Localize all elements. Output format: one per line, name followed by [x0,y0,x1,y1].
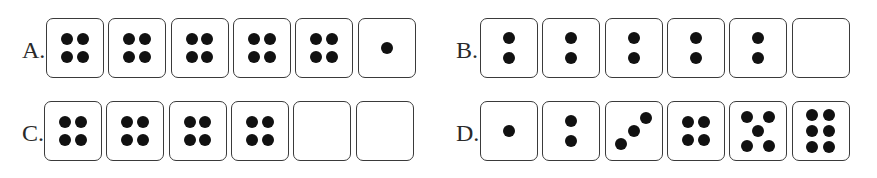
pip-dot-icon [186,33,198,45]
pip-dot-icon [823,125,835,137]
die-face-four [46,18,104,78]
pip-dot-icon [248,33,260,45]
die-face-two [605,18,663,78]
die-face-four [667,101,725,161]
die-face-two [667,18,725,78]
pip-dot-icon [248,51,260,63]
pip-dot-icon [682,116,694,128]
pip-dot-icon [640,112,652,124]
pip-dot-icon [741,140,753,152]
pip-dot-icon [326,51,338,63]
pip-dot-icon [264,51,276,63]
pip-dot-icon [326,33,338,45]
pip-dot-icon [690,32,702,44]
option-label: C. [22,121,44,145]
pip-dot-icon [310,51,322,63]
option-label: D. [456,121,479,145]
die-face-four [108,18,166,78]
pip-dot-icon [752,125,764,137]
die-face-blank [356,101,414,161]
pip-dot-icon [806,141,818,153]
pip-dot-icon [61,33,73,45]
pip-dot-icon [121,134,133,146]
pip-dot-icon [763,111,775,123]
pip-dot-icon [123,51,135,63]
die-face-blank [792,18,850,78]
die-face-five [729,101,787,161]
pip-dot-icon [246,116,258,128]
pip-dot-icon [741,111,753,123]
pip-dot-icon [615,138,627,150]
pip-dot-icon [503,125,515,137]
pip-dot-icon [59,116,71,128]
pip-dot-icon [123,33,135,45]
pip-dot-icon [61,51,73,63]
pip-dot-icon [186,51,198,63]
pip-dot-icon [199,116,211,128]
pip-dot-icon [137,116,149,128]
pip-dot-icon [628,32,640,44]
pip-dot-icon [628,125,640,137]
die-face-four [231,101,289,161]
die-face-two [480,18,538,78]
pip-dot-icon [565,135,577,147]
pip-dot-icon [503,52,515,64]
pip-dot-icon [752,52,764,64]
die-face-four [169,101,227,161]
die-face-six [792,101,850,161]
die-face-four [233,18,291,78]
die-face-four [106,101,164,161]
pip-dot-icon [262,116,274,128]
pip-dot-icon [184,116,196,128]
die-face-two [729,18,787,78]
pip-dot-icon [75,134,87,146]
die-face-one [358,18,416,78]
die-face-two [542,18,600,78]
pip-dot-icon [199,134,211,146]
die-face-four [171,18,229,78]
die-face-three [605,101,663,161]
pip-dot-icon [139,51,151,63]
pip-dot-icon [246,134,258,146]
pip-dot-icon [565,32,577,44]
pip-dot-icon [690,52,702,64]
pip-dot-icon [310,33,322,45]
pip-dot-icon [262,134,274,146]
pip-dot-icon [59,134,71,146]
pip-dot-icon [201,33,213,45]
pip-dot-icon [121,116,133,128]
pip-dot-icon [503,32,515,44]
pip-dot-icon [628,52,640,64]
pip-dot-icon [682,134,694,146]
pip-dot-icon [381,42,393,54]
pip-dot-icon [763,140,775,152]
die-face-blank [293,101,351,161]
pip-dot-icon [139,33,151,45]
pip-dot-icon [77,51,89,63]
pip-dot-icon [565,52,577,64]
option-label: B. [456,38,478,62]
pip-dot-icon [75,116,87,128]
die-face-two [542,101,600,161]
pip-dot-icon [698,116,710,128]
pip-dot-icon [823,141,835,153]
pip-dot-icon [77,33,89,45]
die-face-four [44,101,102,161]
pip-dot-icon [806,109,818,121]
die-face-one [480,101,538,161]
pip-dot-icon [806,125,818,137]
pip-dot-icon [184,134,196,146]
pip-dot-icon [823,109,835,121]
pip-dot-icon [137,134,149,146]
pip-dot-icon [264,33,276,45]
die-face-four [295,18,353,78]
pip-dot-icon [201,51,213,63]
pip-dot-icon [752,32,764,44]
option-label: A. [22,38,45,62]
pip-dot-icon [565,115,577,127]
pip-dot-icon [698,134,710,146]
